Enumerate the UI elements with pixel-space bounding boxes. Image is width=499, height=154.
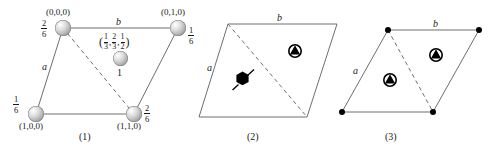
lattice-point-bottom-left: [339, 109, 345, 115]
p2-edge-label-a: a: [207, 63, 212, 73]
atom-coord-bottom-left: (1,0,0): [19, 122, 43, 131]
atom-occupancy-bottom-right: 2 6: [144, 104, 150, 124]
three-fold-axis-icon: [382, 72, 398, 88]
atom-occupancy-interior: 1: [117, 68, 122, 78]
p3-edge-right: [433, 30, 479, 112]
comma-2: ,: [117, 37, 119, 47]
fraction-one-third: 1 3: [104, 33, 108, 51]
atom-sphere-top-right: [170, 20, 186, 36]
p1-edge-right: [134, 28, 178, 114]
atom-coord-top-right: (0,1,0): [161, 8, 185, 17]
three-fold-axis-icon: [287, 43, 303, 59]
panel-caption-1: (1): [79, 132, 91, 142]
p1-edge-left: [36, 28, 63, 114]
atom-sphere-top-left: [55, 20, 71, 36]
p3-edge-label-b: b: [433, 19, 438, 29]
three-fold-axis-icon: [428, 47, 444, 63]
atom-occupancy-bottom-left: 1 6: [13, 95, 19, 115]
atom-occupancy-top-right: 1 6: [188, 26, 194, 46]
atom-sphere-bottom-right: [126, 106, 142, 122]
atom-coord-top-left: (0,0,0): [46, 8, 70, 17]
p3-edge-label-a: a: [353, 66, 358, 76]
p1-edge-label-a: a: [42, 62, 47, 72]
atom-coord-interior: ( 1 3 , 2 3 , 1 2 ): [99, 33, 130, 51]
atom-sphere-bottom-left: [28, 106, 44, 122]
p2-edge-left: [199, 24, 228, 117]
fraction-two-thirds: 2 3: [112, 33, 116, 51]
paren-open: (: [99, 35, 103, 50]
lattice-point-top-right: [476, 27, 482, 33]
six-fold-screw-axis-icon: [230, 66, 258, 94]
atom-coord-bottom-right: (1,1,0): [117, 122, 141, 131]
panel-caption-2: (2): [247, 132, 259, 142]
p3-diagonal-dashed: [388, 30, 433, 112]
p1-edge-label-b: b: [116, 17, 121, 27]
atom-sphere-interior: [113, 51, 128, 66]
p3-edge-left: [342, 30, 388, 112]
atom-occupancy-top-left: 2 6: [41, 19, 47, 39]
figure-canvas: (0,0,0) (0,1,0) (1,0,0) (1,1,0) ( 1 3 , …: [0, 0, 499, 154]
p2-edge-label-b: b: [277, 13, 282, 23]
lattice-point-top-left: [385, 27, 391, 33]
fraction-one-half: 1 2: [121, 33, 125, 51]
paren-close: ): [126, 35, 130, 50]
panel-caption-3: (3): [385, 132, 397, 142]
lattice-point-bottom-right: [430, 109, 436, 115]
comma-1: ,: [109, 37, 111, 47]
p2-edge-right: [307, 24, 337, 117]
